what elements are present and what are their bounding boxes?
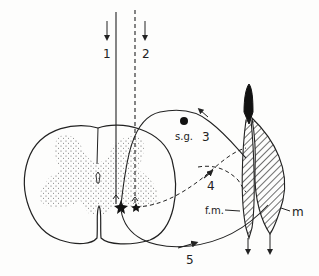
- label-3: 3: [202, 130, 210, 144]
- fusimotor-muscle: [242, 120, 254, 238]
- label-m: m: [292, 205, 304, 219]
- dorsal-septum: [97, 128, 98, 164]
- arrow-icon: [204, 172, 211, 178]
- grey-matter: [40, 135, 159, 215]
- spinal-reflex-diagram: 1 2 s.g. 3 4 5: [0, 0, 319, 276]
- label-4: 4: [207, 179, 215, 193]
- spinal-cord: [25, 125, 176, 244]
- label-sg: s.g.: [175, 131, 193, 142]
- label-1: 1: [103, 47, 111, 61]
- spinal-ganglion-icon: [180, 117, 188, 125]
- label-5: 5: [186, 253, 194, 267]
- label-fm: f.m.: [205, 205, 224, 216]
- diagram-canvas: 1 2 s.g. 3 4 5: [0, 0, 319, 276]
- label-2: 2: [142, 47, 150, 61]
